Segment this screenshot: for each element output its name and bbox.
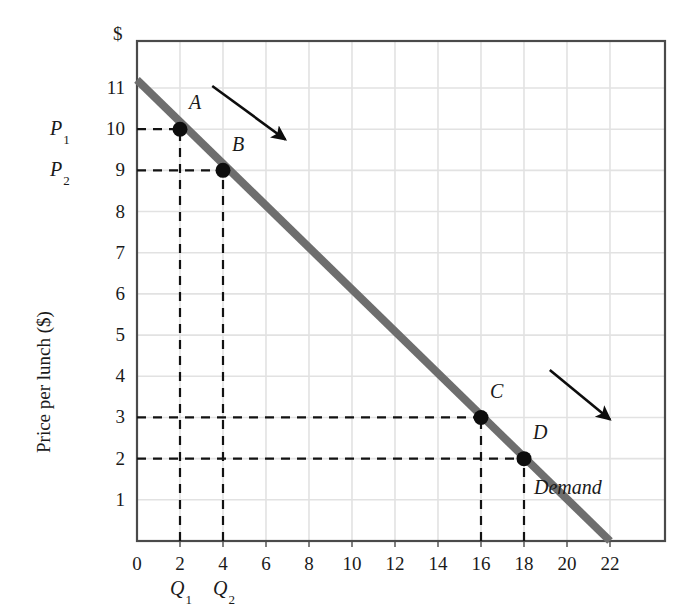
y-tick-label: 7 (89, 243, 125, 262)
x-tick-label: 8 (289, 554, 329, 573)
y-tick-label: 2 (89, 449, 125, 468)
x-tick-label: 2 (160, 554, 200, 573)
y-tick-label: 1 (89, 490, 125, 509)
point-d-marker (517, 451, 532, 466)
x-tick-label: 12 (375, 554, 415, 573)
y-tick-label: 10 (89, 119, 125, 138)
x-tick-label: 4 (203, 554, 243, 573)
plot-border (137, 41, 665, 541)
x-tick-label: 18 (504, 554, 544, 573)
y-tick-label: 11 (89, 78, 125, 97)
y-tick-label: 4 (89, 366, 125, 385)
point-d-label: D (533, 422, 547, 442)
x-tick-label: 22 (590, 554, 630, 573)
y-tick-label: 9 (89, 160, 125, 179)
gridlines (137, 41, 665, 541)
x-tick-label: 10 (332, 554, 372, 573)
x-tick-label: 14 (418, 554, 458, 573)
x-tick-label: 20 (547, 554, 587, 573)
y-tick-label: 6 (89, 284, 125, 303)
plot-frame (137, 41, 665, 541)
point-a-label: A (189, 92, 201, 112)
x-tick-label: 0 (117, 554, 157, 573)
x-tick-label: 6 (246, 554, 286, 573)
point-c-marker (474, 410, 489, 425)
p2-label: P2 (50, 159, 69, 183)
y-tick-label: 5 (89, 325, 125, 344)
y-tick-label: 3 (89, 407, 125, 426)
point-b-marker (216, 163, 231, 178)
x-tick-label: 16 (461, 554, 501, 573)
demand-curve (137, 80, 610, 541)
movement-arrow-lower (550, 370, 610, 419)
point-c-label: C (490, 381, 503, 401)
point-b-label: B (232, 134, 244, 154)
q2-label: Q2 (213, 578, 234, 602)
y-tick-label: 8 (89, 202, 125, 221)
demand-curve-label: Demand (534, 477, 602, 497)
p1-label: P1 (50, 118, 69, 142)
point-a-marker (173, 122, 188, 137)
q1-label: Q1 (170, 578, 191, 602)
demand-curve-line (137, 80, 610, 541)
